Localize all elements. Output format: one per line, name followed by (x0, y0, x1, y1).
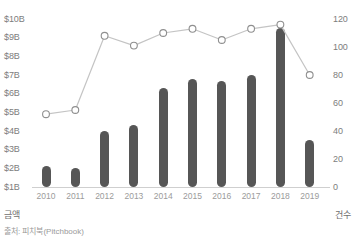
left-axis-tick-6: $6B (4, 88, 20, 98)
line-marker-2013 (131, 42, 138, 49)
bar-2018 (276, 28, 285, 187)
bar-2010 (42, 166, 51, 187)
x-axis-tick-2017: 2017 (236, 191, 266, 201)
right-axis-tick-100: 100 (333, 42, 348, 52)
bar-2013 (129, 125, 138, 187)
left-axis-tick-4: $4B (4, 126, 20, 136)
x-axis-tick-2010: 2010 (31, 191, 61, 201)
line-markers (43, 21, 314, 117)
line-path (46, 25, 310, 115)
right-axis-tick-20: 20 (333, 154, 343, 164)
left-axis-tick-7: $7B (4, 70, 20, 80)
left-axis-tick-5: $5B (4, 107, 20, 117)
left-axis-tick-8: $8B (4, 51, 20, 61)
bar-2014 (159, 88, 168, 187)
right-axis-tick-120: 120 (333, 14, 348, 24)
bar-2012 (100, 131, 109, 187)
bar-2017 (247, 75, 256, 187)
left-axis-tick-2: $2B (4, 163, 20, 173)
bar-2016 (217, 81, 226, 187)
x-axis-tick-2014: 2014 (148, 191, 178, 201)
left-axis-tick-1: $1B (4, 182, 20, 192)
bar-2015 (188, 79, 197, 187)
right-axis-tick-60: 60 (333, 98, 343, 108)
line-marker-2014 (160, 30, 167, 37)
x-axis-tick-2018: 2018 (265, 191, 295, 201)
line-marker-2016 (218, 37, 225, 44)
right-axis-tick-40: 40 (333, 126, 343, 136)
x-axis-baseline (32, 187, 330, 188)
x-axis-tick-2015: 2015 (178, 191, 208, 201)
bar-2011 (71, 168, 80, 187)
line-marker-2010 (43, 111, 50, 118)
right-axis-caption: 건수 (335, 208, 351, 221)
left-axis-tick-10: $10B (4, 14, 25, 24)
line-marker-2017 (248, 25, 255, 32)
left-axis-caption: 금액 (4, 208, 20, 221)
bar-2019 (305, 140, 314, 187)
line-marker-2018 (277, 21, 284, 28)
line-marker-2015 (189, 25, 196, 32)
right-axis-tick-0: 0 (333, 182, 338, 192)
line-series-건수 (0, 0, 364, 239)
line-marker-2012 (101, 32, 108, 39)
x-axis-tick-2019: 2019 (295, 191, 325, 201)
chart-container: $10B$9B$8B$7B$6B$5B$4B$3B$2B$1B 12010080… (0, 0, 364, 239)
left-axis-tick-9: $9B (4, 32, 20, 42)
x-axis-tick-2012: 2012 (90, 191, 120, 201)
line-marker-2011 (72, 107, 79, 114)
left-axis-tick-3: $3B (4, 144, 20, 154)
source-note: 출처: 피치북(Pitchbook) (4, 225, 84, 236)
x-axis-tick-2011: 2011 (60, 191, 90, 201)
line-marker-2019 (306, 72, 313, 79)
x-axis-tick-2016: 2016 (207, 191, 237, 201)
x-axis-tick-2013: 2013 (119, 191, 149, 201)
right-axis-tick-80: 80 (333, 70, 343, 80)
